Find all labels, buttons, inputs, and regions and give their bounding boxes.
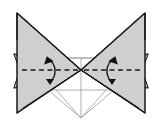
origami-diagram-figure: fold in direction of arrow	[0, 0, 162, 126]
origami-diagram-canvas: fold in direction of arrow	[0, 0, 162, 126]
